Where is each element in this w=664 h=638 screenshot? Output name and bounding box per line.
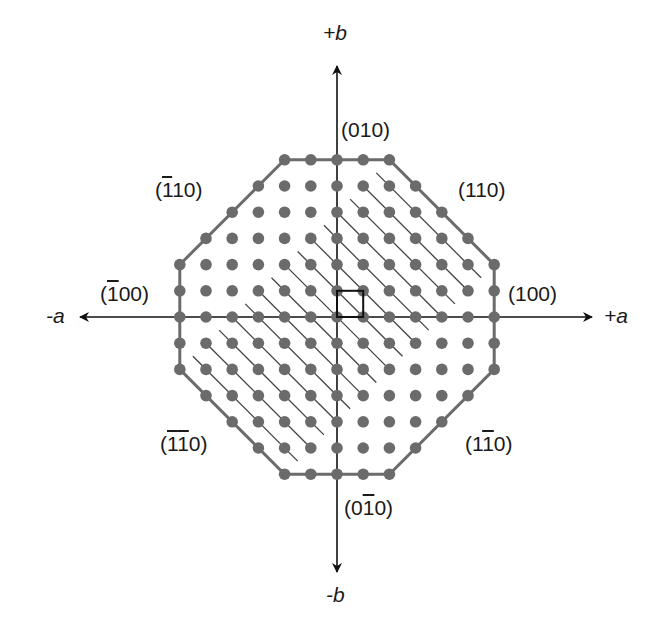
lattice-point — [384, 180, 396, 192]
lattice-point — [436, 206, 448, 218]
lattice-point — [410, 364, 422, 376]
lattice-point — [305, 233, 317, 245]
lattice-point — [357, 337, 369, 349]
lattice-point — [174, 364, 186, 376]
lattice-point — [462, 364, 474, 376]
lattice-point — [200, 259, 212, 271]
lattice-point — [384, 364, 396, 376]
lattice-point — [305, 442, 317, 454]
lattice-point — [226, 416, 238, 428]
lattice-point — [410, 337, 422, 349]
lattice-point — [410, 180, 422, 192]
face-label-bar1-bar1-0: (110) — [160, 433, 208, 454]
lattice-point — [436, 416, 448, 428]
lattice-point — [200, 390, 212, 402]
lattice-point — [226, 337, 238, 349]
lattice-point — [331, 468, 343, 480]
lattice-point — [357, 180, 369, 192]
lattice-point — [253, 259, 265, 271]
lattice-point — [305, 364, 317, 376]
lattice-point — [410, 285, 422, 297]
lattice-point — [200, 311, 212, 323]
lattice-point — [384, 468, 396, 480]
lattice-point — [488, 311, 500, 323]
lattice-point — [305, 206, 317, 218]
lattice-point — [226, 259, 238, 271]
lattice-point — [279, 180, 291, 192]
lattice-point — [279, 390, 291, 402]
lattice-point — [436, 311, 448, 323]
lattice-point — [410, 233, 422, 245]
lattice-point — [410, 259, 422, 271]
lattice-point — [357, 416, 369, 428]
lattice-point — [384, 390, 396, 402]
face-label-100: (100) — [508, 283, 557, 304]
lattice-point — [384, 337, 396, 349]
lattice-point — [305, 390, 317, 402]
lattice-point — [410, 416, 422, 428]
lattice-point — [200, 285, 212, 297]
lattice-point — [331, 233, 343, 245]
lattice-point — [226, 206, 238, 218]
axis-label-minus-b: -b — [326, 584, 345, 605]
lattice-point — [357, 390, 369, 402]
lattice-point — [200, 364, 212, 376]
face-label-bar1-00: (100) — [100, 283, 149, 304]
lattice-point — [279, 442, 291, 454]
lattice-point — [357, 468, 369, 480]
lattice-point — [305, 416, 317, 428]
lattice-point — [384, 259, 396, 271]
lattice-point — [174, 259, 186, 271]
lattice-point — [331, 364, 343, 376]
lattice-point — [410, 442, 422, 454]
lattice-point — [279, 154, 291, 166]
lattice-point — [384, 233, 396, 245]
lattice-point — [253, 416, 265, 428]
lattice-point — [305, 311, 317, 323]
lattice-point — [331, 180, 343, 192]
lattice-point — [305, 337, 317, 349]
face-label-bar1-10: (110) — [155, 179, 202, 200]
lattice-point — [331, 442, 343, 454]
lattice-point — [305, 259, 317, 271]
lattice-point — [253, 390, 265, 402]
lattice-point — [279, 468, 291, 480]
lattice-point — [253, 442, 265, 454]
axis-label-plus-b: +b — [323, 22, 347, 43]
lattice-point — [357, 364, 369, 376]
lattice-point — [488, 259, 500, 271]
lattice-point — [410, 390, 422, 402]
lattice-point — [279, 311, 291, 323]
lattice-point — [488, 285, 500, 297]
axis-label-plus-a: +a — [604, 305, 628, 326]
lattice-point — [357, 233, 369, 245]
lattice-point — [253, 311, 265, 323]
lattice-point — [279, 285, 291, 297]
lattice-point — [357, 442, 369, 454]
lattice-point — [253, 180, 265, 192]
lattice-point — [462, 337, 474, 349]
lattice-point — [174, 285, 186, 297]
lattice-point — [436, 390, 448, 402]
lattice-point — [384, 206, 396, 218]
lattice-point — [226, 364, 238, 376]
lattice-point — [226, 390, 238, 402]
lattice-point — [226, 311, 238, 323]
lattice-point — [436, 285, 448, 297]
lattice-point — [357, 154, 369, 166]
lattice-point — [279, 206, 291, 218]
lattice-point — [357, 206, 369, 218]
lattice-point — [279, 233, 291, 245]
lattice-point — [305, 180, 317, 192]
lattice-point — [253, 285, 265, 297]
lattice-point — [462, 311, 474, 323]
lattice-point — [357, 259, 369, 271]
lattice-point — [331, 337, 343, 349]
lattice-point — [331, 206, 343, 218]
lattice-point — [305, 154, 317, 166]
axis-label-minus-a: -a — [46, 305, 65, 326]
lattice-point — [305, 285, 317, 297]
lattice-point — [279, 259, 291, 271]
lattice-point — [279, 337, 291, 349]
lattice-point — [410, 311, 422, 323]
